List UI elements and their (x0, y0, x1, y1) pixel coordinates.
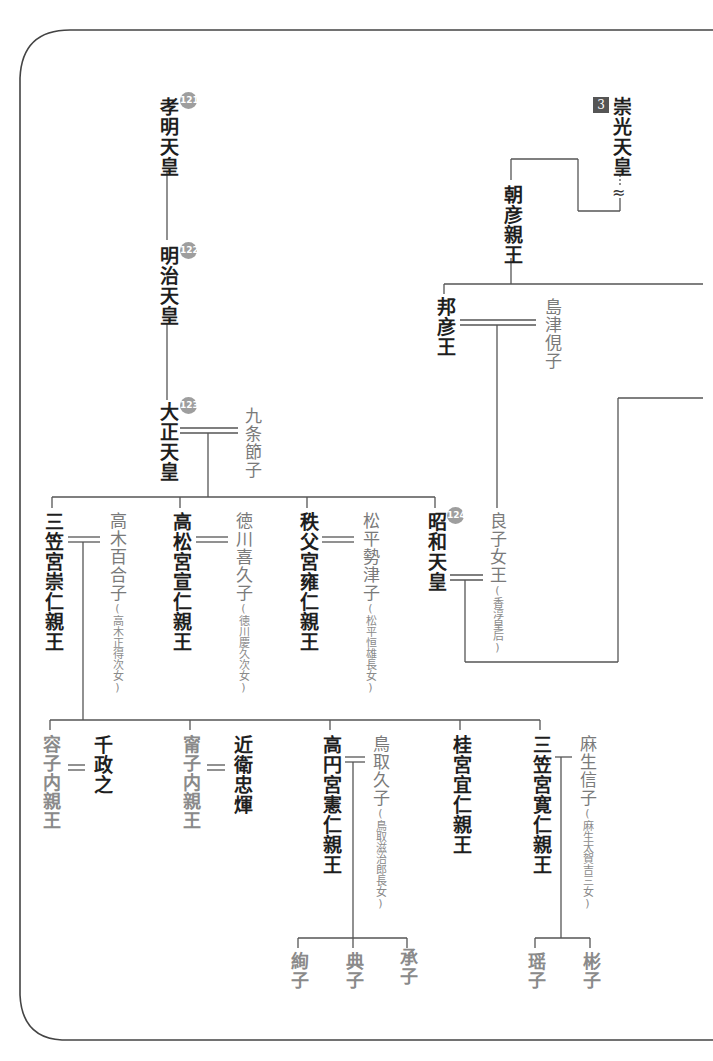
spouse-note: (麻生太賀吉三女) (581, 807, 594, 910)
spouse-taisho: 九条節子 (243, 407, 260, 479)
spouse-note: (徳川慶久次女) (237, 602, 250, 694)
person-asahiko: 朝彦親王 (502, 185, 521, 265)
spouse-chichibu: 松平勢津子(松平恒雄長女) (361, 512, 378, 694)
person-tsuguko: 絢子 (289, 952, 307, 990)
omission-wave-icon: ≈ (612, 183, 625, 202)
person-kuniyoshi: 邦彦王 (435, 297, 454, 357)
person-tsuguko2: 承子 (398, 948, 416, 986)
spouse-name: 徳川喜久子 (233, 512, 253, 602)
spouse-note: (鳥取滋治郎長女) (374, 807, 387, 910)
person-showa: 昭和天皇 (426, 512, 445, 592)
person-tomohito: 三笠宮寛仁親王 (531, 735, 550, 875)
spouse-name: 鳥取久子 (370, 735, 390, 807)
person-suko: 崇光天皇 (611, 97, 630, 177)
person-yasuko: 容子内親王 (41, 735, 59, 830)
person-akiko: 彬子 (581, 952, 599, 990)
spouse-name: 麻生信子 (577, 735, 597, 807)
person-noriko: 典子 (344, 952, 362, 990)
person-taisho: 大正天皇 (158, 402, 177, 482)
person-masako: 甯子内親王 (181, 735, 199, 830)
spouse-takamado: 鳥取久子(鳥取滋治郎長女) (371, 735, 388, 910)
person-yoko: 瑶子 (526, 952, 544, 990)
spouse-note: (香淳皇后) (491, 584, 504, 654)
person-chichibu: 秩父宮雍仁親王 (298, 512, 317, 652)
spouse-yasuko: 千政之 (92, 735, 111, 795)
reign-number-badge: 124 (447, 507, 464, 524)
person-katsura: 桂宮宜仁親王 (451, 735, 470, 855)
spouse-note: (高木正得次女) (111, 602, 124, 694)
person-mikasa-takahito: 三笠宮崇仁親王 (43, 512, 62, 652)
spouse-kuniyoshi: 島津俔子 (543, 298, 560, 370)
northern-court-badge: 3 (593, 97, 609, 113)
reign-number-badge: 122 (180, 242, 197, 259)
reign-number-badge: 121 (180, 92, 197, 109)
spouse-takamatsu: 徳川喜久子(徳川慶久次女) (234, 512, 251, 694)
spouse-name: 松平勢津子 (360, 512, 380, 602)
spouse-mikasa-takahito: 高木百合子(高木正得次女) (108, 512, 125, 694)
person-meiji: 明治天皇 (158, 246, 177, 326)
spouse-tomohito: 麻生信子(麻生太賀吉三女) (578, 735, 595, 910)
spouse-masako: 近衛忠煇 (232, 735, 251, 815)
person-takamado: 高円宮憲仁親王 (321, 735, 340, 875)
spouse-name: 高木百合子 (107, 512, 127, 602)
spouse-name: 良子女王 (487, 512, 507, 584)
person-komei: 孝明天皇 (158, 97, 177, 177)
reign-number-badge: 123 (180, 397, 197, 414)
spouse-showa: 良子女王(香淳皇后) (488, 512, 505, 654)
spouse-note: (松平恒雄長女) (364, 602, 377, 694)
person-takamatsu: 高松宮宣仁親王 (171, 512, 190, 652)
